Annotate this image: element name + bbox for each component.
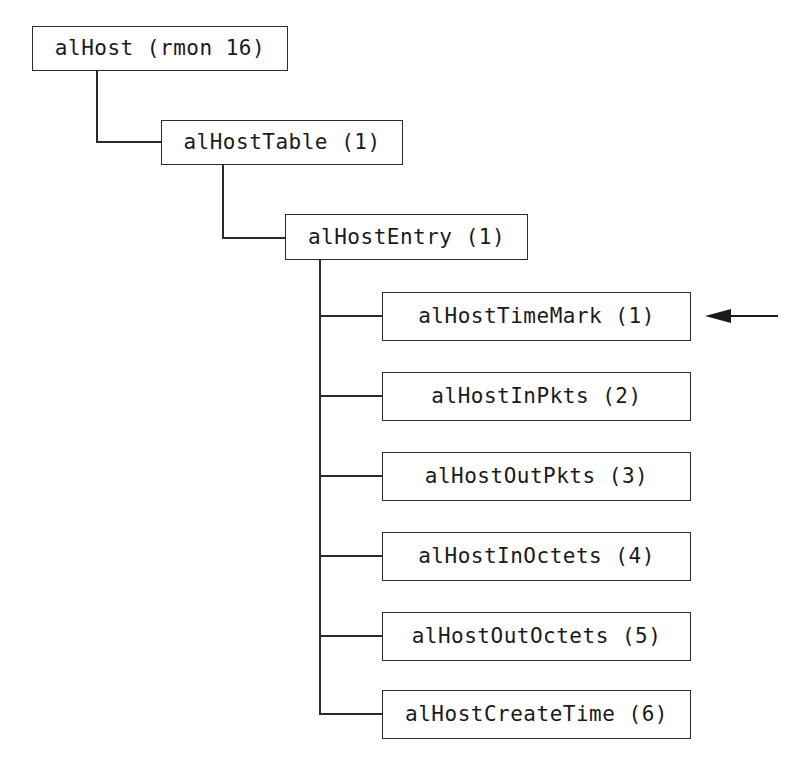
node-al-host-table-label: alHostTable (1) (183, 132, 380, 153)
node-leaf-label: alHostCreateTime (6) (405, 704, 668, 725)
arrow-tail (729, 315, 778, 317)
connector-leaf-stub (319, 315, 383, 317)
arrow-head-icon (705, 309, 731, 323)
node-al-host[interactable]: alHost (rmon 16) (32, 26, 288, 71)
node-leaf-al-host-in-pkts[interactable]: alHostInPkts (2) (382, 372, 691, 421)
connector-leaf-stub (319, 555, 383, 557)
node-al-host-entry-label: alHostEntry (1) (308, 227, 505, 248)
node-leaf-al-host-out-octets[interactable]: alHostOutOctets (5) (382, 612, 691, 661)
node-leaf-label: alHostOutPkts (3) (425, 466, 648, 487)
connector-table-horizontal (222, 237, 286, 239)
node-leaf-label: alHostTimeMark (1) (418, 306, 655, 327)
node-leaf-al-host-in-octets[interactable]: alHostInOctets (4) (382, 532, 691, 581)
connector-root-horizontal (96, 141, 162, 143)
mib-tree-diagram: alHost (rmon 16) alHostTable (1) alHostE… (0, 0, 807, 764)
node-al-host-label: alHost (rmon 16) (55, 38, 265, 59)
node-leaf-al-host-time-mark[interactable]: alHostTimeMark (1) (382, 292, 691, 341)
connector-leaf-stub (319, 475, 383, 477)
connector-leaf-stub (319, 635, 383, 637)
connector-root-vertical (96, 70, 98, 143)
node-leaf-al-host-out-pkts[interactable]: alHostOutPkts (3) (382, 452, 691, 501)
connector-table-vertical (222, 164, 224, 238)
node-al-host-table[interactable]: alHostTable (1) (161, 120, 403, 165)
connector-leaf-stub (319, 395, 383, 397)
node-leaf-label: alHostInOctets (4) (418, 546, 655, 567)
node-leaf-label: alHostOutOctets (5) (412, 626, 662, 647)
connector-entry-trunk (319, 259, 321, 713)
left-arrow-icon (705, 308, 778, 324)
connector-leaf-stub (319, 713, 383, 715)
node-al-host-entry[interactable]: alHostEntry (1) (285, 214, 528, 260)
node-leaf-al-host-create-time[interactable]: alHostCreateTime (6) (382, 690, 691, 739)
node-leaf-label: alHostInPkts (2) (431, 386, 641, 407)
